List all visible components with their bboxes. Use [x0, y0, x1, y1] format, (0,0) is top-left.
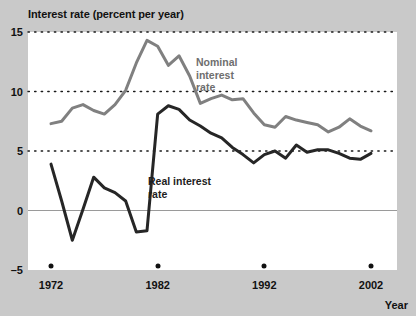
x-tick-dot	[49, 264, 54, 269]
chart-title: Interest rate (percent per year)	[28, 8, 184, 20]
x-tick-dot	[369, 264, 374, 269]
y-tick-label: –5	[11, 264, 23, 276]
y-tick-label: 10	[11, 86, 23, 98]
x-axis-caption: Year	[385, 299, 408, 311]
y-tick-label: 5	[17, 145, 23, 157]
y-tick-label: 15	[11, 26, 23, 38]
x-tick-dot	[155, 264, 160, 269]
x-tick-dot	[262, 264, 267, 269]
real-series-label: Real interest rate	[148, 175, 211, 200]
y-tick-label: 0	[17, 205, 23, 217]
x-tick-label: 1972	[39, 279, 63, 291]
x-tick-label: 1982	[145, 279, 169, 291]
nominal-series-label: Nominal interest rate	[196, 56, 237, 94]
real-series-line	[51, 106, 371, 240]
x-tick-label: 1992	[252, 279, 276, 291]
interest-rate-chart: Interest rate (percent per year) –505101…	[0, 0, 416, 316]
x-tick-label: 2002	[359, 279, 383, 291]
